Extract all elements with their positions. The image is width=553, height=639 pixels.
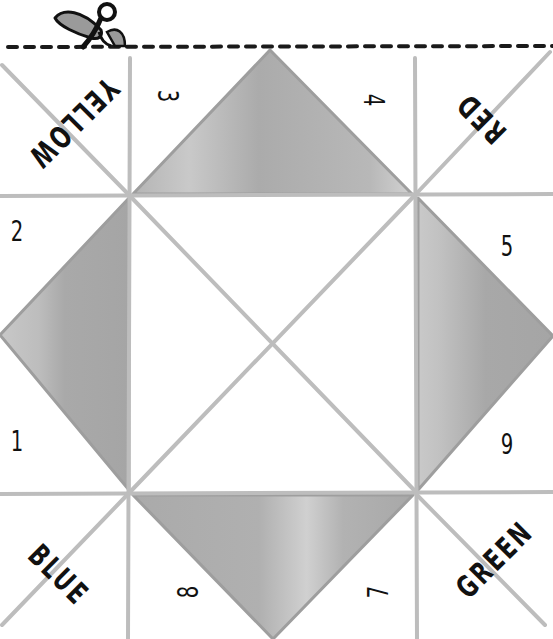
fold-line-horizontal-top (0, 194, 553, 196)
flap-number-4[interactable]: 4 (359, 94, 387, 106)
fold-line-vertical-left (128, 58, 130, 639)
cut-line (8, 46, 553, 47)
flap-number-6[interactable]: 6 (501, 428, 513, 456)
fortune-teller-template: YELLOW RED BLUE GREEN 1 2 3 4 5 6 7 8 (0, 0, 553, 639)
flap-number-5[interactable]: 5 (501, 233, 513, 261)
fold-line-horizontal-bottom (0, 492, 553, 494)
flap-number-3[interactable]: 3 (153, 90, 181, 102)
fold-line-vertical-right (415, 58, 417, 639)
flap-number-2[interactable]: 2 (11, 218, 23, 246)
flap-number-8[interactable]: 8 (175, 586, 203, 598)
bottom-shaded-triangle (133, 495, 413, 639)
flap-number-1[interactable]: 1 (11, 428, 23, 456)
top-shaded-triangle (133, 50, 412, 194)
right-shaded-triangle (418, 198, 553, 490)
flap-number-7[interactable]: 7 (365, 586, 393, 598)
scissors-icon (55, 4, 125, 47)
